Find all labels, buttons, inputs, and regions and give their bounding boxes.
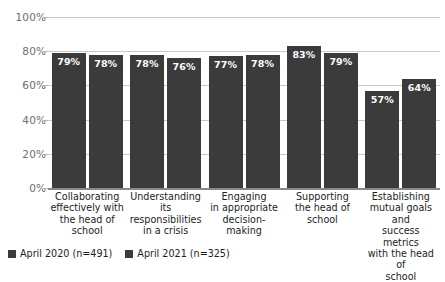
x-axis-category-labels: Collaboratingeffectively withthe head of… — [48, 191, 440, 282]
bar-groups: 79%78%78%76%77%78%83%79%57%64% — [48, 17, 440, 188]
bar[interactable]: 77% — [209, 56, 243, 188]
category-label-line: mutual goals and — [363, 202, 439, 225]
bar-group: 79%78% — [48, 17, 126, 188]
category-label-line: Understanding — [127, 191, 203, 202]
legend-swatch-icon — [125, 250, 133, 258]
category-label: Understandingits responsibilitiesin a cr… — [126, 191, 204, 282]
category-label-line: school — [363, 271, 439, 282]
category-label-line: Engaging — [206, 191, 282, 202]
bar[interactable]: 78% — [246, 55, 280, 188]
bar[interactable]: 78% — [89, 55, 123, 188]
category-label-line: effectively with — [49, 202, 125, 213]
bar-group: 83%79% — [283, 17, 361, 188]
y-axis-tick-label: 60% — [4, 79, 46, 91]
y-axis-tick-label: 20% — [4, 148, 46, 160]
bar-group: 78%76% — [126, 17, 204, 188]
legend-item[interactable]: April 2020 (n=491) — [8, 249, 112, 259]
category-label-line: in a crisis — [127, 225, 203, 236]
bar-group: 77%78% — [205, 17, 283, 188]
category-label-line: its responsibilities — [127, 202, 203, 225]
category-label-line: Collaborating — [49, 191, 125, 202]
bar-value-label: 79% — [52, 57, 86, 67]
category-label-line: school — [49, 225, 125, 236]
legend: April 2020 (n=491)April 2021 (n=325) — [8, 249, 230, 259]
category-label-line: in appropriate — [206, 202, 282, 213]
category-label: Supportingthe head ofschool — [283, 191, 361, 282]
bar-value-label: 77% — [209, 60, 243, 70]
category-label: Establishingmutual goals andsuccess metr… — [362, 191, 440, 282]
bar[interactable]: 64% — [402, 79, 436, 188]
y-axis-tick-label: 80% — [4, 45, 46, 57]
category-label-line: the head of — [49, 214, 125, 225]
bar[interactable]: 76% — [167, 58, 201, 188]
legend-label: April 2020 (n=491) — [20, 249, 112, 259]
bar-value-label: 57% — [365, 95, 399, 105]
y-axis-tick-label: 100% — [4, 11, 46, 23]
bar[interactable]: 57% — [365, 91, 399, 188]
bar[interactable]: 79% — [324, 53, 358, 188]
bar-value-label: 78% — [89, 59, 123, 69]
y-axis-tick-label: 40% — [4, 114, 46, 126]
category-label-line: success metrics — [363, 225, 439, 248]
bar-value-label: 83% — [287, 50, 321, 60]
legend-swatch-icon — [8, 250, 16, 258]
category-label-line: Supporting — [284, 191, 360, 202]
bar-value-label: 78% — [130, 59, 164, 69]
bar-value-label: 78% — [246, 59, 280, 69]
category-label-line: Establishing — [363, 191, 439, 202]
bar[interactable]: 78% — [130, 55, 164, 188]
bar-value-label: 79% — [324, 57, 358, 67]
category-label: Engagingin appropriatedecision-making — [205, 191, 283, 282]
bar[interactable]: 79% — [52, 53, 86, 188]
category-label-line: with the head of — [363, 248, 439, 271]
bar-value-label: 76% — [167, 62, 201, 72]
y-axis: 0%20%40%60%80%100% — [0, 17, 46, 188]
bar-group: 57%64% — [362, 17, 440, 188]
category-label-line: the head of — [284, 202, 360, 213]
legend-label: April 2021 (n=325) — [137, 249, 229, 259]
legend-item[interactable]: April 2021 (n=325) — [125, 249, 229, 259]
bar[interactable]: 83% — [287, 46, 321, 188]
category-label-line: school — [284, 214, 360, 225]
y-axis-tick-label: 0% — [4, 182, 46, 194]
x-axis-line — [48, 188, 440, 190]
category-label: Collaboratingeffectively withthe head of… — [48, 191, 126, 282]
category-label-line: decision-making — [206, 214, 282, 237]
bar-value-label: 64% — [402, 83, 436, 93]
